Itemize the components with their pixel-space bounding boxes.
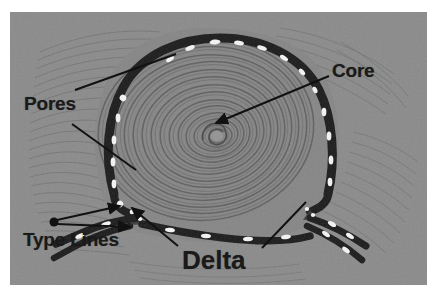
label-pores: Pores	[24, 93, 76, 115]
fingerprint-figure: Pores Core Type Lines Delta	[0, 0, 440, 300]
label-type-lines: Type Lines	[23, 229, 119, 251]
label-delta: Delta	[182, 245, 246, 276]
label-core: Core	[332, 60, 375, 82]
